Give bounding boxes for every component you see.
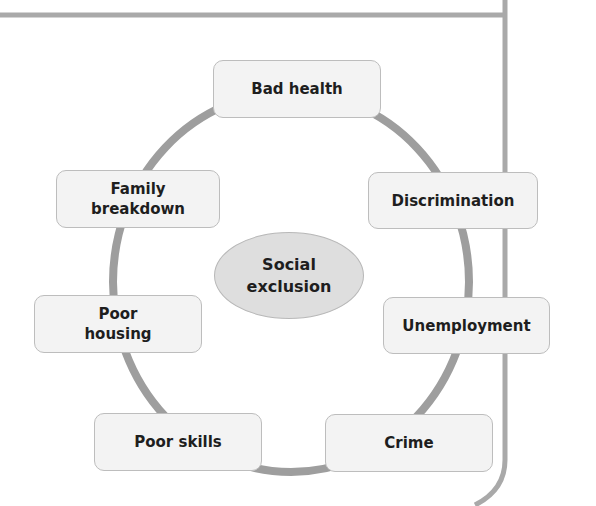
node-unemployment: Unemployment — [383, 297, 550, 354]
node-bad-health: Bad health — [213, 60, 381, 118]
node-crime: Crime — [325, 414, 493, 472]
node-poor-housing: Poor housing — [34, 295, 202, 353]
node-discrimination: Discrimination — [368, 172, 538, 229]
node-family-breakdown: Family breakdown — [56, 170, 220, 228]
node-poor-skills: Poor skills — [94, 413, 262, 471]
center-node-social-exclusion: Social exclusion — [214, 232, 364, 319]
